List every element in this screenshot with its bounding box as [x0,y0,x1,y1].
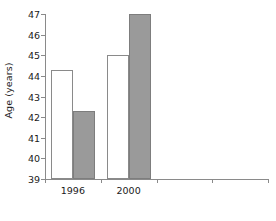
x-axis-tick-labels: 19962000 [45,185,268,203]
plot-area [45,14,268,179]
bar-1996-white-bar [51,70,73,179]
y-axis-tick-label: 43 [28,91,40,102]
y-axis-tick-label: 47 [28,9,40,20]
bar-2000-gray-bar [129,14,151,179]
x-axis-tick-mark [101,179,102,183]
bar-2000-white-bar [107,55,129,179]
x-axis-tick-mark [268,179,269,183]
x-axis-tick-mark [212,179,213,183]
x-axis-tick-mark [45,179,46,183]
y-axis-tick-label: 46 [28,29,40,40]
bar-chart: Age (years) 394041424344454647 19962000 [0,0,276,221]
y-axis-tick-label: 45 [28,50,40,61]
bar-group [212,14,268,179]
y-axis-tick-label: 41 [28,132,40,143]
bar-group [45,14,101,179]
bar-group [101,14,157,179]
y-axis-title: Age (years) [0,0,16,180]
bar-group [157,14,213,179]
x-axis-tick-label: 1996 [61,185,85,196]
x-axis-tick-mark [157,179,158,183]
x-axis-tick-label: 2000 [117,185,141,196]
y-axis-tick-label: 39 [28,174,40,185]
y-axis-tick-labels: 394041424344454647 [16,9,40,179]
y-axis-tick-label: 42 [28,112,40,123]
bar-1996-gray-bar [73,111,95,179]
y-axis-tick-label: 44 [28,70,40,81]
y-axis-title-text: Age (years) [3,62,14,118]
y-axis-tick-label: 40 [28,153,40,164]
